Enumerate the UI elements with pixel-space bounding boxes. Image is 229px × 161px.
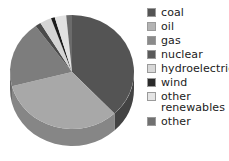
legend-item[interactable]: nuclear: [147, 49, 229, 60]
pie-chart-plot-area: [0, 0, 140, 161]
legend-item[interactable]: other renewables: [147, 91, 229, 113]
legend-item[interactable]: hydroelectric: [147, 63, 229, 74]
legend-swatch-icon: [147, 22, 156, 31]
pie-chart-svg: [0, 0, 140, 161]
legend-item-label: oil: [161, 21, 174, 32]
legend-item-label: hydroelectric: [161, 63, 229, 74]
legend-item-label: gas: [161, 35, 181, 46]
legend-item-label: coal: [161, 7, 184, 18]
legend-item-label: nuclear: [161, 49, 203, 60]
legend-item-label: other renewables: [161, 91, 225, 113]
legend-item[interactable]: wind: [147, 77, 229, 88]
pie-chart-figure: coaloilgasnuclearhydroelectricwindother …: [0, 0, 229, 161]
legend-swatch-icon: [147, 8, 156, 17]
legend-swatch-icon: [147, 78, 156, 87]
legend-swatch-icon: [147, 117, 156, 126]
legend-item[interactable]: coal: [147, 7, 229, 18]
legend-item[interactable]: other: [147, 116, 229, 127]
legend-item[interactable]: gas: [147, 35, 229, 46]
legend-swatch-icon: [147, 50, 156, 59]
legend-item[interactable]: oil: [147, 21, 229, 32]
legend-swatch-icon: [147, 36, 156, 45]
legend-item-label: wind: [161, 77, 187, 88]
chart-legend: coaloilgasnuclearhydroelectricwindother …: [140, 0, 229, 130]
legend-swatch-icon: [147, 92, 156, 101]
legend-item-label: other: [161, 116, 191, 127]
legend-swatch-icon: [147, 64, 156, 73]
